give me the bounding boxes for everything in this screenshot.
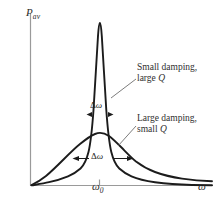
resonance-curve-figure: Pav ω ω0 Small damping, large Q Large da… — [0, 0, 221, 208]
x-axis-label: ω — [198, 180, 206, 193]
annotation-small-damping-text: large — [137, 73, 158, 83]
x-axis-tick-label-omega0: ω0 — [92, 180, 104, 193]
width-marker-narrow — [87, 112, 114, 117]
omega-symbol-broad: ω — [97, 151, 103, 161]
y-axis-label-subscript: av — [33, 12, 40, 21]
width-label-narrow: Δω — [90, 100, 102, 111]
plot-canvas — [0, 0, 221, 208]
annotation-small-damping-line2: large Q — [137, 73, 197, 84]
annotation-large-damping-q: Q — [160, 124, 167, 134]
y-axis-label-main: P — [26, 6, 33, 18]
y-axis-label: Pav — [26, 6, 40, 19]
x-tick-label-subscript: 0 — [100, 186, 104, 195]
x-tick-label-main: ω — [92, 180, 100, 192]
annotation-large-damping: Large damping, small Q — [137, 113, 197, 135]
annotation-large-damping-line2: small Q — [137, 124, 197, 135]
annotation-large-damping-text: small — [137, 124, 160, 134]
annotation-small-damping: Small damping, large Q — [137, 62, 197, 84]
width-label-broad: Δω — [91, 151, 103, 162]
leader-line-large-damping — [118, 126, 136, 146]
annotation-small-damping-line1: Small damping, — [137, 62, 197, 73]
annotation-small-damping-q: Q — [158, 73, 165, 83]
annotation-large-damping-line1: Large damping, — [137, 113, 197, 124]
omega-symbol-narrow: ω — [96, 100, 102, 110]
leader-line-small-damping — [111, 79, 136, 98]
curve-small-damping — [32, 23, 213, 185]
